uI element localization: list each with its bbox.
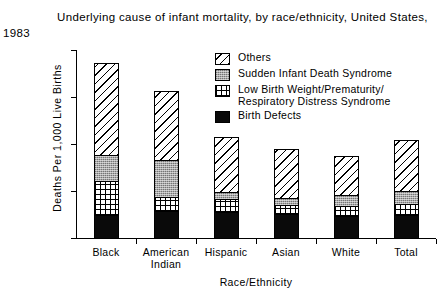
y-axis-tick <box>71 97 76 98</box>
bar-segment <box>154 197 179 212</box>
x-axis-tick <box>136 239 137 244</box>
legend-swatch-icon <box>215 111 230 123</box>
stacked-bar <box>274 150 299 239</box>
bar-segment <box>334 156 359 196</box>
bar-segment <box>214 212 239 239</box>
x-axis-category-label: Asian <box>256 246 316 258</box>
x-axis-tick <box>376 239 377 244</box>
legend-item: Others <box>215 52 443 65</box>
bar-segment <box>274 205 299 214</box>
bar-segment <box>94 155 119 181</box>
legend-item: Birth Defects <box>215 110 443 123</box>
legend-item-label: Low Birth Weight/Prematurity/ Respirator… <box>238 84 443 107</box>
bar-segment <box>274 149 299 199</box>
y-axis-tick <box>71 238 76 239</box>
stacked-bar <box>394 141 419 239</box>
chart-title-line-1: Underlying cause of infant mortality, by… <box>57 9 445 25</box>
bar-segment <box>394 191 419 205</box>
legend-item: Sudden Infant Death Syndrome <box>215 68 443 81</box>
x-axis-category-label: Total <box>376 246 436 258</box>
y-axis-title: Deaths Per 1,000 Live Births <box>51 13 63 263</box>
x-axis-tick <box>436 239 437 244</box>
bar-segment <box>334 206 359 217</box>
bar-segment <box>154 160 179 198</box>
legend-swatch-icon <box>215 53 230 65</box>
bar-segment <box>154 211 179 239</box>
bar-segment <box>154 91 179 161</box>
stacked-bar <box>94 64 119 239</box>
x-axis-tick <box>256 239 257 244</box>
bar-segment <box>394 140 419 192</box>
chart-title-line-2: 1983 <box>3 25 30 41</box>
bar-segment <box>94 63 119 156</box>
x-axis-category-label: White <box>316 246 376 258</box>
legend-swatch-icon <box>215 69 230 81</box>
bar-segment <box>214 137 239 193</box>
x-axis-category-label: Hispanic <box>196 246 256 258</box>
stacked-bar <box>154 92 179 239</box>
bar-segment <box>394 204 419 216</box>
bar-segment <box>94 181 119 217</box>
legend-item: Low Birth Weight/Prematurity/ Respirator… <box>215 84 443 107</box>
legend-item-label: Sudden Infant Death Syndrome <box>238 68 443 80</box>
stacked-bar <box>214 138 239 239</box>
x-axis-tick <box>316 239 317 244</box>
bar-segment <box>214 192 239 200</box>
y-axis-tick <box>71 144 76 145</box>
bar-segment <box>94 215 119 239</box>
bar-segment <box>274 198 299 207</box>
bar-segment <box>274 214 299 239</box>
bar-segment <box>394 215 419 239</box>
bar-segment <box>334 195 359 207</box>
y-axis-tick <box>71 50 76 51</box>
stacked-bar <box>334 157 359 239</box>
legend-item-label: Birth Defects <box>238 110 443 122</box>
y-axis-tick <box>71 191 76 192</box>
x-axis-title: Race/Ethnicity <box>76 276 436 288</box>
legend-item-label: Others <box>238 52 443 64</box>
bar-segment <box>214 199 239 213</box>
legend-swatch-icon <box>215 85 230 97</box>
chart-legend: OthersSudden Infant Death SyndromeLow Bi… <box>215 52 443 126</box>
x-axis-tick <box>196 239 197 244</box>
y-axis-line <box>76 50 77 239</box>
bar-segment <box>334 216 359 239</box>
x-axis-category-label: American Indian <box>136 246 196 270</box>
x-axis-category-label: Black <box>76 246 136 258</box>
